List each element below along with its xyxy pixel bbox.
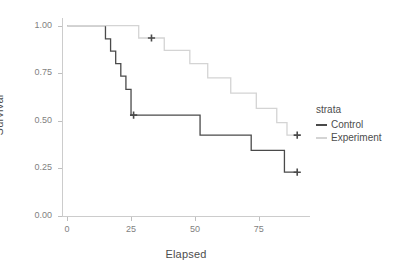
x-tick-mark — [131, 217, 132, 221]
y-tick-label: 0.00 — [18, 210, 52, 220]
x-axis-line — [62, 216, 310, 217]
x-tick-mark — [259, 217, 260, 221]
legend-entries: ControlExperiment — [316, 118, 382, 144]
y-tick-label: 1.00 — [18, 20, 52, 30]
y-axis-title: Survival — [0, 70, 5, 160]
legend-item-control[interactable]: Control — [316, 118, 382, 131]
legend-item-experiment[interactable]: Experiment — [316, 131, 382, 144]
legend-item-label: Control — [331, 119, 363, 130]
censor-mark — [294, 169, 301, 176]
x-tick-mark — [67, 217, 68, 221]
step-line — [67, 26, 297, 135]
x-tick-label: 50 — [180, 224, 210, 234]
x-tick-label: 25 — [116, 224, 146, 234]
censor-mark — [148, 34, 155, 41]
x-tick-label: 75 — [244, 224, 274, 234]
series-experiment — [67, 26, 301, 139]
x-axis-title: Elapsed — [62, 248, 310, 260]
series-control — [67, 26, 301, 176]
y-tick-label: 0.75 — [18, 67, 52, 77]
legend: strata ControlExperiment — [316, 104, 382, 144]
step-line — [67, 26, 297, 173]
plot-panel — [62, 18, 310, 216]
y-axis-line — [62, 18, 63, 216]
x-tick-mark — [195, 217, 196, 221]
legend-line-swatch — [316, 124, 327, 126]
legend-title: strata — [316, 104, 382, 115]
legend-item-label: Experiment — [331, 132, 382, 143]
y-tick-label: 0.25 — [18, 162, 52, 172]
kaplan-meier-chart: 0.000.250.500.751.00 0255075 Survival El… — [0, 0, 408, 278]
y-tick-label: 0.50 — [18, 115, 52, 125]
x-tick-label: 0 — [52, 224, 82, 234]
series-layer — [62, 18, 330, 236]
legend-line-swatch — [316, 137, 327, 139]
censor-mark — [294, 131, 301, 138]
